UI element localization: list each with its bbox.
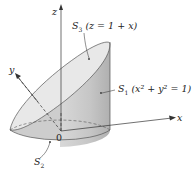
y-axis-arrow	[15, 73, 21, 79]
s2-label: S2	[34, 157, 44, 169]
origin-label: 0	[56, 133, 62, 143]
z-axis-arrow	[59, 4, 63, 10]
z-axis-label: z	[52, 7, 57, 17]
x-axis-arrow	[169, 116, 176, 121]
x-axis-label: x	[177, 113, 182, 123]
s1-label: S1 (x² + y² = 1)	[118, 84, 191, 96]
y-axis-label: y	[9, 65, 14, 75]
s1-equation: (x² + y² = 1)	[131, 83, 191, 94]
s2-leader	[40, 142, 50, 158]
s3-label: S3 (z = 1 + x)	[72, 21, 137, 33]
surface-diagram: z y x 0 S3 (z = 1 + x) S1 (x² + y² = 1) …	[0, 0, 194, 184]
s3-equation: (z = 1 + x)	[85, 20, 137, 31]
